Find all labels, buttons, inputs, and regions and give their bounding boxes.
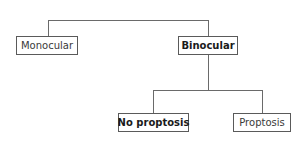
node-no-proptosis-label: No proptosis (118, 117, 190, 128)
connector-binocular-stem (208, 20, 209, 36)
connector-monocular-stem (48, 20, 49, 36)
connector-proptosis-stem (262, 90, 263, 113)
node-proptosis: Proptosis (233, 113, 291, 132)
node-monocular-label: Monocular (21, 40, 73, 51)
connector-no-proptosis-stem (153, 90, 154, 113)
node-monocular: Monocular (16, 36, 78, 55)
node-binocular-label: Binocular (181, 40, 234, 51)
node-proptosis-label: Proptosis (239, 117, 284, 128)
connector-binocular-down (208, 54, 209, 90)
connector-bottom-horizontal (153, 90, 263, 91)
connector-top-horizontal (48, 20, 209, 21)
node-no-proptosis: No proptosis (118, 113, 189, 132)
node-binocular: Binocular (178, 36, 238, 55)
